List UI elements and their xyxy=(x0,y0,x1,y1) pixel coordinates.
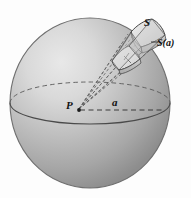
label-center-point: P xyxy=(66,100,73,111)
center-point-dot xyxy=(77,108,81,112)
label-radius: a xyxy=(112,97,118,108)
sphere-solid-angle-figure: P a S S(a) xyxy=(0,0,191,198)
label-inner-patch: S(a) xyxy=(157,38,174,48)
figure-canvas xyxy=(0,0,191,198)
label-outer-patch: S xyxy=(144,17,150,28)
